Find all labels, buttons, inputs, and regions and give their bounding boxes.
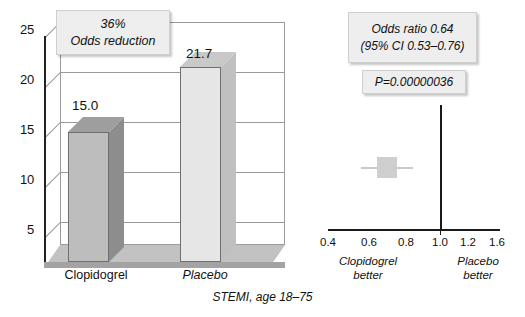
confidence-interval-value: (95% CI 0.53–0.76) <box>360 38 464 54</box>
x-axis-tick-label: 1.6 <box>481 236 513 248</box>
y-axis-tick-label: 20 <box>8 72 34 87</box>
bar-front-face <box>68 132 109 262</box>
depth-edge-20 <box>45 72 61 88</box>
bar-side-face <box>109 117 124 262</box>
depth-edge-5 <box>45 222 61 238</box>
odds-ratio-value: Odds ratio 0.64 <box>371 21 453 37</box>
x-axis-line <box>328 229 500 231</box>
y-axis-tick-label: 25 <box>8 22 34 37</box>
bar-value-label: 21.7 <box>186 46 212 61</box>
trial-results-figure: 25 20 15 10 5 15.0 <box>0 0 525 317</box>
callout-line-1: 36% <box>100 16 125 33</box>
x-axis-category-clopidogrel: Clopidogrel <box>56 268 136 282</box>
x-axis-tick-label: 0.8 <box>390 236 422 248</box>
point-estimate-marker <box>377 157 397 178</box>
direction-label-right: Placebo better <box>438 254 518 283</box>
odds-ratio-callout: Odds ratio 0.64 (95% CI 0.53–0.76) <box>348 12 477 63</box>
y-axis-line <box>44 36 46 268</box>
bar-value-label: 15.0 <box>72 98 98 113</box>
p-value-callout: P=0.00000036 <box>362 70 466 94</box>
direction-label-right-line2: better <box>438 268 518 282</box>
direction-label-left-line2: better <box>318 268 418 282</box>
x-axis-category-placebo: Placebo <box>170 268 240 282</box>
p-value-text: P=0.00000036 <box>375 74 453 90</box>
bar-front-face <box>180 67 221 262</box>
direction-label-right-line1: Placebo <box>438 254 518 268</box>
bar-side-face <box>221 52 236 262</box>
x-axis-tick-label: 0.6 <box>353 236 385 248</box>
figure-caption: STEMI, age 18–75 <box>0 290 525 304</box>
y-axis-tick-label: 10 <box>8 172 34 187</box>
bar-chart-panel: 25 20 15 10 5 15.0 <box>0 0 300 317</box>
odds-reduction-callout: 36% Odds reduction <box>56 10 170 55</box>
y-axis-tick-label: 15 <box>8 122 34 137</box>
x-axis-tick-label: 0.4 <box>312 236 344 248</box>
direction-label-left: Clopidogrel better <box>318 254 418 283</box>
forest-plot-panel: Odds ratio 0.64 (95% CI 0.53–0.76) P=0.0… <box>300 0 525 317</box>
x-axis-tick-1.0 <box>440 229 441 235</box>
back-wall-right-edge <box>284 22 285 244</box>
x-axis-tick-label: 1.2 <box>452 236 484 248</box>
callout-line-2: Odds reduction <box>71 33 156 50</box>
direction-label-left-line1: Clopidogrel <box>318 254 418 268</box>
depth-edge-15 <box>45 122 61 138</box>
y-axis-tick-label: 5 <box>8 222 34 237</box>
back-wall-left-edge <box>60 22 61 244</box>
gridline-20 <box>60 72 285 73</box>
depth-edge-10 <box>45 172 61 188</box>
reference-line-1.0 <box>440 105 442 230</box>
